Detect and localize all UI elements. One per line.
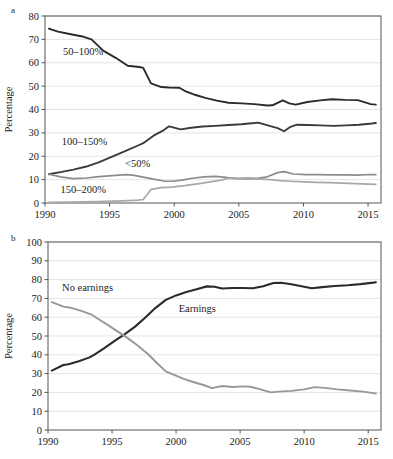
y-axis-tick-label: 50 xyxy=(29,81,40,92)
panel-a-plot: 0102030405060708019901995200020052010201… xyxy=(0,0,393,228)
series-label-no-earnings: No earnings xyxy=(62,282,113,293)
series-label-50-100: 50–100% xyxy=(63,46,104,57)
y-axis-tick-label: 20 xyxy=(29,151,40,162)
x-axis-tick-label: 2005 xyxy=(230,436,251,447)
panel-b-plot: 0102030405060708090100199019952000200520… xyxy=(0,228,393,459)
series-line-no-earnings xyxy=(52,302,376,393)
y-axis-tick-label: 20 xyxy=(32,387,43,398)
y-axis-tick-label: 10 xyxy=(32,406,43,417)
y-axis: 01020304050607080 xyxy=(29,11,46,209)
y-axis-title: Percentage xyxy=(3,313,14,359)
y-axis-tick-label: 80 xyxy=(32,274,43,285)
x-axis-tick-label: 2000 xyxy=(164,209,185,220)
gridlines xyxy=(48,242,381,411)
panel-a-letter: a xyxy=(11,6,15,15)
y-axis-tick-label: 0 xyxy=(37,425,42,436)
x-axis-tick-label: 1995 xyxy=(99,209,120,220)
chart-panel-a: a 01020304050607080199019952000200520102… xyxy=(0,0,393,228)
x-axis: 199019952000200520102015 xyxy=(35,203,379,220)
y-axis-tick-label: 50 xyxy=(32,331,43,342)
y-axis-tick-label: 90 xyxy=(32,255,43,266)
x-axis-tick-label: 2000 xyxy=(166,436,187,447)
series-labels: EarningsNo earnings xyxy=(62,282,216,314)
series-line-50-100 xyxy=(49,29,376,106)
y-axis-tick-label: 40 xyxy=(32,349,43,360)
series-label-earnings: Earnings xyxy=(179,303,216,314)
y-axis-tick-label: 10 xyxy=(29,174,40,185)
gridlines xyxy=(45,16,381,180)
y-axis-tick-label: 70 xyxy=(32,293,43,304)
x-axis-tick-label: 2005 xyxy=(228,209,249,220)
y-axis-tick-label: 80 xyxy=(29,11,40,22)
series-label-150-200: 150–200% xyxy=(61,184,107,195)
chart-panel-b: b 01020304050607080901001990199520002005… xyxy=(0,228,393,459)
y-axis-title: Percentage xyxy=(3,86,14,132)
x-axis-tick-label: 2015 xyxy=(358,436,379,447)
x-axis: 199019952000200520102015 xyxy=(38,430,379,447)
series-line-100-150 xyxy=(49,123,376,175)
series-line-earnings xyxy=(52,282,376,370)
y-axis-tick-label: 100 xyxy=(26,237,42,248)
y-axis-tick-label: 60 xyxy=(29,57,40,68)
x-axis-tick-label: 1990 xyxy=(38,436,59,447)
series-label-50: <50% xyxy=(125,158,150,169)
y-axis-tick-label: 30 xyxy=(29,127,40,138)
panel-b-letter: b xyxy=(11,234,16,243)
y-axis: 0102030405060708090100 xyxy=(26,237,48,436)
figure-container: a 01020304050607080199019952000200520102… xyxy=(0,0,393,459)
y-axis-tick-label: 0 xyxy=(34,198,39,209)
x-axis-tick-label: 2015 xyxy=(358,209,379,220)
x-axis-tick-label: 2010 xyxy=(294,436,315,447)
series-group xyxy=(52,282,376,393)
series-label-100-150: 100–150% xyxy=(62,136,108,147)
x-axis-tick-label: 1990 xyxy=(35,209,56,220)
y-axis-tick-label: 70 xyxy=(29,34,40,45)
series-labels: 50–100%100–150%<50%150–200% xyxy=(61,46,151,196)
x-axis-tick-label: 2010 xyxy=(293,209,314,220)
y-axis-tick-label: 60 xyxy=(32,312,43,323)
y-axis-tick-label: 40 xyxy=(29,104,40,115)
y-axis-tick-label: 30 xyxy=(32,368,43,379)
x-axis-tick-label: 1995 xyxy=(102,436,123,447)
